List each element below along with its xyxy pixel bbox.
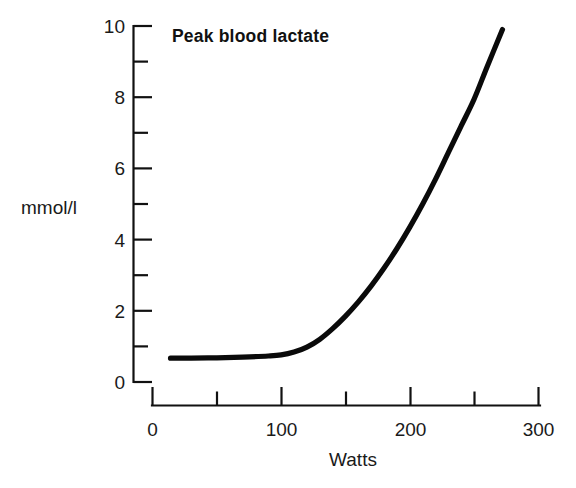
x-axis-minor-ticks xyxy=(217,392,475,406)
y-tick-label-4: 4 xyxy=(114,230,125,251)
y-tick-label-2: 2 xyxy=(114,301,125,322)
y-tick-label-8: 8 xyxy=(114,87,125,108)
x-tick-label-0: 0 xyxy=(147,419,158,440)
x-tick-label-200: 200 xyxy=(395,419,427,440)
y-axis-tick-labels: 10 8 6 4 2 0 xyxy=(104,16,126,393)
y-tick-label-0: 0 xyxy=(114,372,125,393)
x-tick-label-300: 300 xyxy=(523,419,555,440)
chart-canvas: 10 8 6 4 2 0 0 100 200 300 mmol/l xyxy=(0,0,576,488)
lactate-curve xyxy=(171,30,503,359)
x-axis-label: Watts xyxy=(329,449,377,470)
y-tick-label-6: 6 xyxy=(114,158,125,179)
plot-title: Peak blood lactate xyxy=(172,26,329,46)
lactate-chart-figure: 10 8 6 4 2 0 0 100 200 300 mmol/l xyxy=(0,0,576,488)
x-axis-tick-labels: 0 100 200 300 xyxy=(147,419,554,440)
y-axis-minor-ticks xyxy=(134,62,149,347)
y-tick-label-10: 10 xyxy=(104,16,125,37)
y-axis-label: mmol/l xyxy=(21,197,77,218)
x-tick-label-100: 100 xyxy=(266,419,298,440)
